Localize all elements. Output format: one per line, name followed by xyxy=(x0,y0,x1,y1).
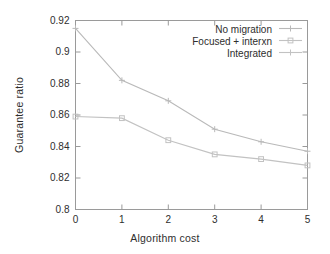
series-markers xyxy=(73,114,310,168)
x-tick-label: 2 xyxy=(158,214,178,225)
y-tick-label: 0.86 xyxy=(36,109,70,120)
x-tick-label: 5 xyxy=(298,214,318,225)
y-tick-label: 0.82 xyxy=(36,172,70,183)
x-tick-label: 1 xyxy=(112,214,132,225)
y-tick-label: 0.84 xyxy=(36,141,70,152)
x-tick-label: 3 xyxy=(205,214,225,225)
series-line xyxy=(76,117,308,166)
legend-symbols xyxy=(279,26,302,56)
x-axis-title: Algorithm cost xyxy=(0,232,330,244)
x-tick-label: 0 xyxy=(66,214,86,225)
y-tick-label: 0.8 xyxy=(36,204,70,215)
legend-item-no-migration: No migration xyxy=(162,24,272,35)
x-tick-label: 4 xyxy=(251,214,271,225)
chart-figure: 0.80.820.840.860.880.90.92 012345 Algori… xyxy=(0,0,330,254)
y-axis-title: Guarantee ratio xyxy=(13,35,25,195)
y-axis-title-wrapper: Guarantee ratio xyxy=(13,35,27,195)
legend-item-integrated: Integrated xyxy=(162,48,272,59)
y-tick-label: 0.9 xyxy=(36,46,70,57)
y-tick-label: 0.92 xyxy=(36,15,70,26)
legend-item-focused-interxn: Focused + interxn xyxy=(162,36,272,47)
y-tick-label: 0.88 xyxy=(36,78,70,89)
